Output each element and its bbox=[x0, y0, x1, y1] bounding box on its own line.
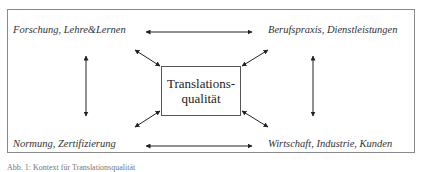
center-line-2: qualität bbox=[182, 91, 221, 106]
center-node-translation-quality: Translations- qualität bbox=[161, 66, 241, 116]
arrow-diag-bottom-right bbox=[242, 111, 268, 127]
figure-caption: Abb. 1: Kontext für Translationsqualität bbox=[7, 163, 135, 172]
arrow-diag-bottom-left bbox=[135, 111, 160, 127]
arrow-diag-top-right bbox=[242, 50, 268, 66]
label-professional-practice: Berufspraxis, Dienstleistungen bbox=[268, 24, 398, 35]
label-research-teaching: Forschung, Lehre&Lernen bbox=[13, 24, 126, 35]
label-economy-industry: Wirtschaft, Industrie, Kunden bbox=[268, 138, 392, 149]
label-standardization: Normung, Zertifizierung bbox=[13, 138, 116, 149]
arrow-diag-top-left bbox=[135, 50, 160, 66]
center-line-1: Translations- bbox=[167, 76, 235, 91]
